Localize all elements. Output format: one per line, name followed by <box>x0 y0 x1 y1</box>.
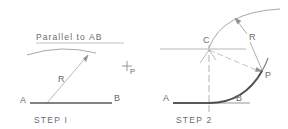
offset-arc-step2 <box>209 9 280 48</box>
parallel-arc-step1 <box>27 49 96 55</box>
label-point-p-step2: P <box>265 70 271 80</box>
label-radius-step1: R <box>58 74 65 84</box>
drawing-canvas: Parallel to AB A B R P STEP I <box>0 0 288 129</box>
fillet-construction-figure: Parallel to AB A B R P STEP I <box>0 0 288 129</box>
radius-line-c-to-p-step2 <box>209 50 261 72</box>
label-point-a-step2: A <box>163 93 169 103</box>
step-2-drawing <box>160 9 280 112</box>
label-point-p-step1: P <box>130 67 135 76</box>
radius-arrowhead-upper-step2 <box>235 18 241 24</box>
label-point-c-step2: C <box>203 35 210 45</box>
tick-line-c-left-step2 <box>200 50 209 63</box>
radius-leader-lower-step2 <box>250 42 262 70</box>
parallel-note-label: Parallel to AB <box>36 32 102 42</box>
radius-arrowhead-step1 <box>84 55 89 62</box>
caption-step-1: STEP I <box>34 115 68 125</box>
label-point-b-step1: B <box>114 93 120 103</box>
caption-step-2: STEP 2 <box>176 115 212 125</box>
label-point-a-step1: A <box>20 95 26 105</box>
label-radius-step2: R <box>249 32 256 42</box>
label-point-b-step2: B <box>236 93 242 103</box>
radius-leader-step1 <box>47 55 88 103</box>
